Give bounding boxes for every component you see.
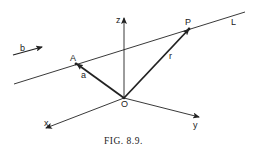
figure-canvas: z x y O A P a r b L FIG. 8.9.	[0, 0, 257, 150]
x-axis	[46, 98, 124, 128]
figure-caption: FIG. 8.9.	[104, 136, 143, 146]
line-L-label: L	[231, 17, 236, 27]
vector-a-label: a	[81, 70, 86, 80]
vector-r-label: r	[169, 51, 172, 61]
vector-b-label: b	[20, 43, 25, 53]
vector-b	[13, 47, 42, 55]
z-axis-label: z	[116, 15, 121, 25]
point-A-dot	[75, 63, 78, 66]
x-axis-label: x	[44, 118, 49, 128]
vector-line-diagram: z x y O A P a r b L FIG. 8.9.	[0, 0, 257, 150]
origin-label: O	[121, 99, 128, 109]
y-axis	[124, 98, 199, 117]
point-P-dot	[188, 28, 191, 31]
point-A-label: A	[70, 53, 76, 63]
line-L	[14, 12, 245, 84]
y-axis-label: y	[193, 120, 198, 130]
point-P-label: P	[185, 17, 191, 27]
